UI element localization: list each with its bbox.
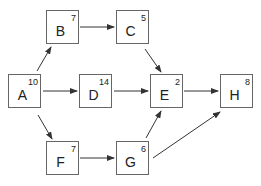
node-e: E 2	[150, 74, 183, 108]
node-d: D 14	[79, 74, 112, 108]
node-label: C	[117, 24, 148, 38]
node-label: F	[47, 155, 78, 169]
node-duration: 8	[245, 78, 250, 87]
node-label: D	[80, 88, 111, 102]
edge-c-e	[145, 49, 161, 72]
node-a: A 10	[8, 74, 41, 108]
node-label: B	[47, 24, 78, 38]
node-f: F 7	[46, 141, 79, 175]
node-duration: 14	[99, 78, 109, 87]
node-duration: 5	[141, 14, 146, 23]
node-label: G	[117, 155, 148, 169]
node-h: H 8	[220, 74, 253, 108]
edge-a-f	[38, 115, 52, 139]
node-label: H	[221, 88, 252, 102]
node-duration: 7	[71, 14, 76, 23]
node-label: E	[151, 88, 182, 102]
edge-a-b	[37, 47, 51, 71]
node-b: B 7	[46, 10, 79, 44]
node-c: C 5	[116, 10, 149, 44]
node-duration: 2	[175, 78, 180, 87]
node-duration: 10	[28, 78, 38, 87]
node-label: A	[9, 88, 40, 102]
node-g: G 6	[116, 141, 149, 175]
node-duration: 7	[71, 145, 76, 154]
edge-g-e	[146, 111, 161, 138]
edge-g-h	[153, 112, 220, 158]
node-duration: 6	[141, 145, 146, 154]
